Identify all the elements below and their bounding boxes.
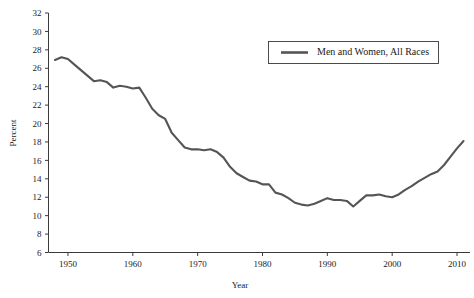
- data-line-men-and-women-all-races: [55, 57, 464, 206]
- x-axis-ticks: 1950196019701980199020002010: [59, 253, 467, 269]
- y-tick-label: 8: [37, 229, 42, 239]
- x-tick-label: 1990: [318, 259, 337, 269]
- x-tick-label: 2010: [448, 259, 467, 269]
- x-tick-label: 1950: [59, 259, 78, 269]
- chart-figure: 68101214161820222426283032 1950196019701…: [0, 0, 474, 298]
- y-tick-label: 28: [33, 45, 43, 55]
- y-tick-label: 6: [37, 248, 42, 258]
- y-tick-label: 32: [33, 8, 42, 18]
- x-tick-label: 1960: [124, 259, 143, 269]
- y-tick-label: 18: [33, 137, 43, 147]
- y-tick-label: 24: [33, 82, 43, 92]
- x-tick-label: 1980: [253, 259, 272, 269]
- x-tick-label: 1970: [189, 259, 208, 269]
- legend-label-men-and-women-all-races: Men and Women, All Races: [317, 46, 429, 57]
- y-tick-label: 30: [33, 27, 43, 37]
- y-tick-label: 14: [33, 174, 43, 184]
- y-tick-label: 10: [33, 211, 43, 221]
- x-axis-title: Year: [232, 280, 249, 290]
- x-tick-label: 2000: [383, 259, 402, 269]
- y-axis-ticks: 68101214161820222426283032: [33, 8, 49, 258]
- y-tick-label: 20: [33, 119, 43, 129]
- chart-legend: Men and Women, All Races: [269, 42, 439, 64]
- y-tick-label: 16: [33, 156, 43, 166]
- poverty-rate-line-chart: 68101214161820222426283032 1950196019701…: [0, 0, 474, 298]
- y-tick-label: 12: [33, 192, 42, 202]
- y-tick-label: 26: [33, 63, 43, 73]
- y-tick-label: 22: [33, 100, 42, 110]
- y-axis-title: Percent: [8, 119, 18, 146]
